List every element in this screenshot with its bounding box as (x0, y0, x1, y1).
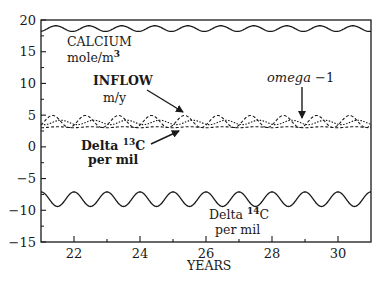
y-tick-label: 20 (19, 13, 36, 28)
calcium-label: CALCIUM (67, 34, 132, 49)
y-tick-label: 10 (19, 76, 36, 91)
delta13c-unit-label: per mil (88, 152, 139, 167)
x-tick-label: 30 (330, 246, 347, 261)
series-line (41, 192, 371, 207)
delta14c-unit-label: per mil (215, 222, 260, 237)
y-tick-label: 15 (19, 44, 36, 59)
y-tick-label: −10 (9, 203, 36, 218)
inflow-arrow (147, 90, 183, 112)
inflow-unit-label: m/y (103, 90, 127, 105)
omega-label: omega −1 (267, 70, 334, 85)
chart: −15−10−5051015202224262830 CALCIUM mole/… (0, 0, 384, 281)
x-tick-label: 28 (264, 246, 281, 261)
x-tick-label: 24 (132, 246, 149, 261)
calcium-unit-label: mole/m3 (67, 49, 120, 65)
axis-ticks: −15−10−5051015202224262830 (9, 13, 347, 262)
y-tick-label: 5 (28, 108, 36, 123)
y-tick-label: −15 (9, 235, 36, 250)
delta13c-label: Delta 13C (81, 137, 145, 153)
y-tick-label: −5 (17, 171, 36, 186)
x-axis-label: YEARS (186, 258, 231, 273)
delta14c-label: Delta 14C (209, 206, 269, 222)
delta13c-arrow (151, 131, 179, 144)
inflow-label: INFLOW (93, 73, 154, 88)
y-tick-label: 0 (28, 139, 36, 154)
series-line (41, 120, 371, 124)
series-line (41, 127, 371, 128)
x-tick-label: 22 (66, 246, 83, 261)
series-line (41, 26, 371, 32)
series-line (41, 115, 371, 127)
